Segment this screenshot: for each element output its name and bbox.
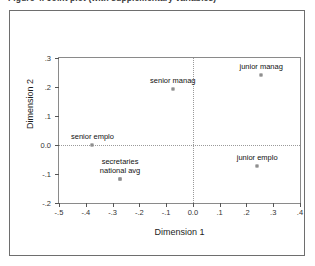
x-axis-tick-label: -.5	[55, 208, 64, 217]
y-axis-tick-label: -.1	[42, 170, 51, 179]
data-point[interactable]	[256, 164, 259, 167]
x-axis-tick	[113, 203, 114, 207]
chart-panel: -.5-.4-.3-.2-.10.0.1.2.3.4-.2-.10.0.1.2.…	[9, 10, 305, 256]
data-point-label: senior manag	[150, 76, 195, 85]
data-point[interactable]	[91, 144, 94, 147]
y-axis-title: Dimension 2	[25, 44, 35, 164]
data-point-label: junior emplo	[237, 153, 278, 162]
x-axis-tick-label: .2	[243, 208, 249, 217]
data-point-label: junior manag	[239, 62, 282, 71]
y-axis-tick	[55, 174, 59, 175]
data-point-label: secretaries	[102, 157, 139, 166]
x-axis-tick	[139, 203, 140, 207]
x-axis-tick	[300, 203, 301, 207]
y-axis-tick-label: -.2	[42, 199, 51, 208]
chart-title: Figure 4. Joint plot (with supplementary…	[8, 0, 308, 4]
data-point[interactable]	[171, 88, 174, 91]
x-axis-tick-label: 0.0	[188, 208, 198, 217]
x-axis-tick-label: .4	[297, 208, 303, 217]
y-axis-tick	[55, 203, 59, 204]
x-axis-tick-label: -.3	[108, 208, 117, 217]
x-axis-tick	[220, 203, 221, 207]
data-point-label: national avg	[100, 166, 140, 175]
reference-line-horizontal	[59, 145, 300, 146]
x-axis-tick	[59, 203, 60, 207]
x-axis-title: Dimension 1	[58, 227, 301, 237]
x-axis-tick	[193, 203, 194, 207]
y-axis-tick	[55, 58, 59, 59]
x-axis-tick-label: -.2	[135, 208, 144, 217]
y-axis-tick	[55, 116, 59, 117]
y-axis-tick-label: 0.0	[41, 141, 51, 150]
plot-area: -.5-.4-.3-.2-.10.0.1.2.3.4-.2-.10.0.1.2.…	[58, 57, 301, 204]
x-axis-tick-label: -.4	[81, 208, 90, 217]
y-axis-tick-label: .3	[45, 54, 51, 63]
y-axis-tick	[55, 87, 59, 88]
y-axis-tick	[55, 145, 59, 146]
y-axis-tick-label: .2	[45, 83, 51, 92]
x-axis-tick	[166, 203, 167, 207]
x-axis-tick-label: .3	[270, 208, 276, 217]
data-point[interactable]	[260, 73, 263, 76]
x-axis-tick	[273, 203, 274, 207]
data-point[interactable]	[119, 178, 122, 181]
x-axis-tick-label: -.1	[162, 208, 171, 217]
x-axis-tick	[246, 203, 247, 207]
x-axis-tick	[86, 203, 87, 207]
y-axis-tick-label: .1	[45, 112, 51, 121]
data-point-label: senior emplo	[71, 132, 114, 141]
x-axis-tick-label: .1	[217, 208, 223, 217]
